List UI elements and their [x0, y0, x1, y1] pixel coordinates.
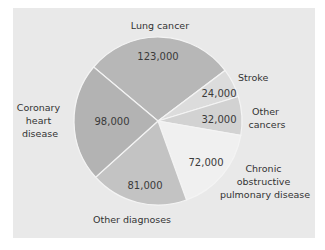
label-stroke: Stroke — [238, 72, 268, 83]
pie-chart: 123,000 24,000 32,000 72,000 81,000 98,0… — [0, 0, 325, 250]
value-other-cancers: 32,000 — [202, 114, 237, 125]
label-other-cancers: Other cancers — [249, 106, 286, 130]
label-copd: Chronic obstructive pulmonary disease — [220, 163, 310, 200]
label-lung-cancer: Lung cancer — [131, 20, 189, 31]
label-coronary-heart-disease: Coronary heart disease — [17, 102, 63, 139]
value-copd: 72,000 — [189, 157, 224, 168]
value-coronary-heart-disease: 98,000 — [95, 116, 130, 127]
value-stroke: 24,000 — [202, 88, 237, 99]
value-lung-cancer: 123,000 — [137, 51, 178, 62]
label-other-diagnoses: Other diagnoses — [93, 214, 171, 225]
value-other-diagnoses: 81,000 — [128, 180, 163, 191]
